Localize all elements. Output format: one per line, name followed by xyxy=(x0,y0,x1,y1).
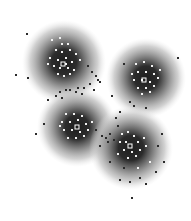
sample-point xyxy=(61,51,63,53)
sample-point xyxy=(143,137,145,139)
sample-point xyxy=(77,119,79,121)
sample-point xyxy=(67,43,69,45)
sample-point xyxy=(125,141,127,143)
sample-point xyxy=(161,133,163,135)
sample-point xyxy=(111,95,113,97)
sample-point xyxy=(141,93,143,95)
sample-point xyxy=(15,74,17,76)
sample-point xyxy=(145,87,147,89)
sample-point xyxy=(99,81,101,83)
sample-point xyxy=(89,83,91,85)
sample-point xyxy=(73,69,75,71)
sample-point xyxy=(55,95,57,97)
sample-point xyxy=(153,85,155,87)
sample-point xyxy=(135,63,137,65)
sample-point xyxy=(109,133,111,135)
density-blobs xyxy=(22,20,186,190)
sample-point xyxy=(59,37,61,39)
sample-point xyxy=(79,131,81,133)
sample-point xyxy=(35,133,37,135)
sample-point xyxy=(119,141,121,143)
sample-point xyxy=(105,137,107,139)
sample-point xyxy=(129,181,131,183)
sample-point xyxy=(149,91,151,93)
sample-point xyxy=(83,135,85,137)
sample-point xyxy=(75,91,77,93)
sample-point xyxy=(67,137,69,139)
sample-point xyxy=(145,107,147,109)
sample-point xyxy=(137,141,139,143)
sample-point xyxy=(145,71,147,73)
sample-point xyxy=(151,65,153,67)
sample-point xyxy=(117,125,119,127)
sample-point xyxy=(133,105,135,107)
sample-point xyxy=(143,61,145,63)
sample-point xyxy=(115,117,117,119)
sample-point xyxy=(73,113,75,115)
sample-point xyxy=(83,87,85,89)
sample-point xyxy=(57,59,59,61)
sample-point xyxy=(61,97,63,99)
sample-point xyxy=(71,61,73,63)
cluster-density-plot xyxy=(0,0,191,221)
sample-point xyxy=(107,141,109,143)
sample-point xyxy=(63,129,65,131)
sample-point xyxy=(57,73,59,75)
sample-point xyxy=(91,121,93,123)
sample-point xyxy=(59,125,61,127)
sample-point xyxy=(65,113,67,115)
sample-point xyxy=(87,129,89,131)
sample-point xyxy=(69,89,71,91)
sample-point xyxy=(101,135,103,137)
sample-point xyxy=(131,73,133,75)
sample-point xyxy=(153,73,155,75)
sample-point xyxy=(145,183,147,185)
sample-point xyxy=(117,153,119,155)
sample-point xyxy=(69,73,71,75)
sample-point xyxy=(177,57,179,59)
sample-point xyxy=(133,79,135,81)
sample-point xyxy=(149,81,151,83)
sample-point xyxy=(131,197,133,199)
sample-point xyxy=(69,49,71,51)
sample-point xyxy=(99,145,101,147)
sample-point xyxy=(155,171,157,173)
sample-point xyxy=(133,135,135,137)
plot-canvas xyxy=(0,0,191,221)
sample-point xyxy=(61,43,63,45)
sample-point xyxy=(127,157,129,159)
sample-point xyxy=(157,77,159,79)
sample-point xyxy=(85,123,87,125)
sample-point xyxy=(65,57,67,59)
sample-point xyxy=(71,129,73,131)
sample-point xyxy=(43,123,45,125)
sample-point xyxy=(113,139,115,141)
sample-point xyxy=(75,53,77,55)
sample-point xyxy=(47,99,49,101)
sample-point xyxy=(26,33,28,35)
sample-point xyxy=(49,57,51,59)
sample-point xyxy=(137,71,139,73)
sample-point xyxy=(131,151,133,153)
sample-point xyxy=(77,87,79,89)
sample-point xyxy=(109,161,111,163)
sample-point xyxy=(61,121,63,123)
sample-point xyxy=(65,89,67,91)
sample-point xyxy=(27,77,29,79)
sample-point xyxy=(47,63,49,65)
sample-point xyxy=(67,67,69,69)
sample-point xyxy=(157,145,159,147)
sample-point xyxy=(81,115,83,117)
sample-point xyxy=(53,65,55,67)
sample-point xyxy=(119,111,121,113)
sample-point xyxy=(93,89,95,91)
sample-point xyxy=(69,121,71,123)
sample-point xyxy=(123,167,125,169)
sample-point xyxy=(129,101,131,103)
sample-point xyxy=(95,129,97,131)
sample-point xyxy=(137,167,139,169)
sample-point xyxy=(91,71,93,73)
sample-point xyxy=(63,75,65,77)
sample-point xyxy=(139,149,141,151)
sample-point xyxy=(55,49,57,51)
